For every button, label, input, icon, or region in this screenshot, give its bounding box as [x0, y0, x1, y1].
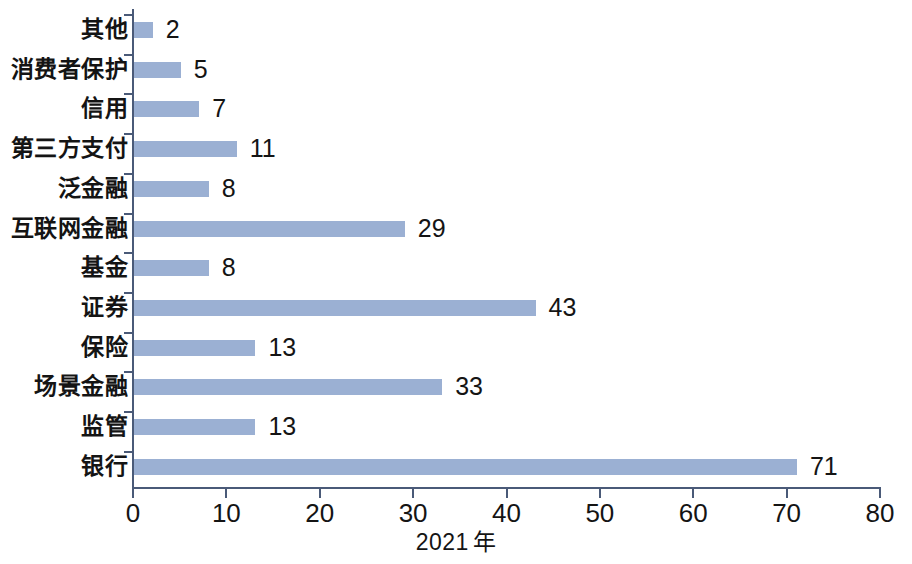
bar-value-label: 8 [222, 255, 236, 280]
x-axis-tick-label: 70 [772, 500, 801, 526]
bar-value-label: 43 [549, 295, 577, 320]
x-axis-tick [319, 489, 321, 498]
x-axis-tick [879, 489, 881, 498]
x-axis-tick [692, 489, 694, 498]
x-axis-tick [225, 489, 227, 498]
x-axis-tick [599, 489, 601, 498]
bar-chart: 其他消费者保护信用第三方支付泛金融互联网金融基金证券保险场景金融监管银行 257… [0, 0, 912, 564]
x-axis-tick-label: 0 [126, 500, 140, 526]
x-axis-tick [412, 489, 414, 498]
bar [134, 62, 181, 78]
bar [134, 22, 153, 38]
x-axis-tick-label: 10 [212, 500, 241, 526]
x-axis-title-year: 2021 [416, 529, 469, 555]
bar [134, 459, 797, 475]
y-axis-category-label: 基金 [81, 256, 128, 279]
bar [134, 181, 209, 197]
bar-value-label: 13 [268, 335, 296, 360]
bar [134, 260, 209, 276]
bar [134, 300, 536, 316]
x-axis-tick [786, 489, 788, 498]
bar [134, 141, 237, 157]
y-axis-category-label: 银行 [81, 455, 128, 478]
y-axis-line [132, 9, 134, 488]
x-axis-title: 2021年 [0, 531, 912, 554]
bar [134, 221, 405, 237]
x-axis-tick [132, 489, 134, 498]
x-axis-title-unit: 年 [469, 529, 497, 555]
y-axis-category-label: 消费者保护 [11, 58, 129, 81]
bar-value-label: 8 [222, 176, 236, 201]
bar-value-label: 2 [166, 17, 180, 42]
x-axis-tick-label: 20 [305, 500, 334, 526]
y-axis-category-label: 其他 [81, 18, 128, 41]
y-axis-category-label: 第三方支付 [11, 137, 129, 160]
x-axis-tick-label: 40 [492, 500, 521, 526]
y-axis-category-label: 证券 [81, 296, 128, 319]
y-axis-category-label: 保险 [81, 336, 128, 359]
bar [134, 101, 199, 117]
bar-value-label: 71 [810, 454, 838, 479]
y-axis-category-label: 监管 [81, 415, 128, 438]
y-axis-category-label: 泛金融 [58, 177, 129, 200]
plot-area: 其他消费者保护信用第三方支付泛金融互联网金融基金证券保险场景金融监管银行 257… [0, 0, 912, 564]
bar-value-label: 11 [250, 136, 276, 161]
bar [134, 379, 442, 395]
bar-value-label: 5 [194, 57, 208, 82]
y-axis-category-label: 信用 [81, 97, 128, 120]
bar [134, 419, 255, 435]
x-axis-tick-label: 80 [866, 500, 895, 526]
x-axis-tick [506, 489, 508, 498]
y-axis-category-label: 互联网金融 [11, 217, 129, 240]
bar-value-label: 29 [418, 216, 446, 241]
x-axis-tick-label: 30 [399, 500, 428, 526]
bar [134, 340, 255, 356]
bar-value-label: 7 [212, 96, 226, 121]
x-axis-tick-label: 50 [585, 500, 614, 526]
x-axis-tick-label: 60 [679, 500, 708, 526]
bar-value-label: 33 [455, 374, 483, 399]
bar-value-label: 13 [268, 414, 296, 439]
y-axis-category-label: 场景金融 [34, 375, 128, 398]
